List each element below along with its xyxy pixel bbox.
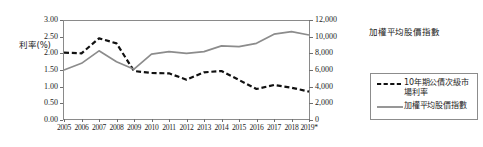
right-tick-label: 10,000 bbox=[315, 32, 349, 41]
right-tick-label: 6,000 bbox=[315, 65, 349, 74]
left-tick-label: 2.00 bbox=[30, 48, 58, 57]
right-tick-label: 8,000 bbox=[315, 48, 349, 57]
solid-line-icon bbox=[376, 101, 404, 113]
left-tick-label: 2.50 bbox=[30, 32, 58, 41]
left-tickmark bbox=[60, 120, 63, 121]
right-tick-label: 2,000 bbox=[315, 98, 349, 107]
left-tick-label: 1.50 bbox=[30, 65, 58, 74]
right-tick-label: 4,000 bbox=[315, 82, 349, 91]
left-tick-label: 3.00 bbox=[30, 15, 58, 24]
legend: 10年期公債次級市場利率 加權平均股價指數 bbox=[370, 73, 478, 120]
legend-item-stock-index: 加權平均股價指數 bbox=[376, 101, 476, 113]
series-line bbox=[64, 38, 309, 91]
plot-area bbox=[63, 20, 310, 120]
series-lines bbox=[63, 20, 310, 120]
x-tick-label: 2019* bbox=[297, 123, 321, 132]
legend-label-stock-index: 加權平均股價指數 bbox=[404, 101, 476, 111]
stock-index-interest-rate-chart: 利率(%) 加權平均股價指數 0.000.501.001.502.002.503… bbox=[0, 0, 483, 147]
dashed-line-icon bbox=[376, 78, 404, 90]
right-axis-title: 加權平均股價指數 bbox=[369, 25, 439, 37]
legend-label-interest-rate: 10年期公債次級市場利率 bbox=[404, 78, 476, 98]
left-tick-label: 1.00 bbox=[30, 82, 58, 91]
legend-item-interest-rate: 10年期公債次級市場利率 bbox=[376, 78, 476, 98]
left-tick-label: 0.50 bbox=[30, 98, 58, 107]
series-line bbox=[64, 32, 309, 70]
right-tick-label: 12,000 bbox=[315, 15, 349, 24]
